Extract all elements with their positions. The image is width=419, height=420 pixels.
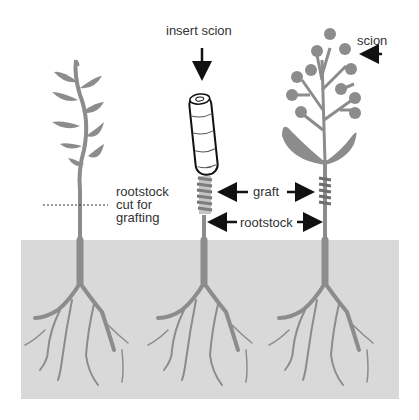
grafting-diagram — [0, 0, 419, 420]
grafted-plant-3 — [282, 28, 361, 240]
scion-insertion-plant-2 — [188, 93, 218, 240]
rootstock-plant-1 — [52, 60, 104, 240]
rootstock-cut-label-line3: grafting — [116, 211, 159, 225]
graft-label: graft — [253, 185, 279, 199]
roots-plant-2 — [148, 240, 252, 385]
rootstock-label: rootstock — [240, 216, 293, 230]
roots-plant-1 — [25, 240, 128, 385]
roots-plant-3 — [269, 240, 373, 385]
insert-scion-label: insert scion — [166, 24, 232, 38]
scion-label: scion — [357, 34, 387, 48]
roots — [25, 240, 373, 385]
